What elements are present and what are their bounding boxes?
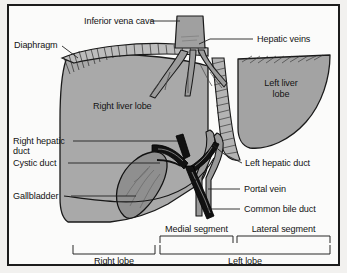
left-liver-lobe-shape [238, 55, 330, 148]
label-right-lobe: Right lobe [73, 256, 155, 266]
label-hepatic-veins: Hepatic veins [257, 34, 310, 44]
label-cystic-duct: Cystic duct [13, 158, 56, 168]
label-right-hepatic-duct-line2: duct [13, 146, 30, 156]
label-lateral-segment: Lateral segment [237, 224, 330, 234]
label-right-liver-lobe: Right liver lobe [93, 101, 152, 111]
bracket-right-lobe [73, 245, 155, 254]
label-portal-vein: Portal vein [244, 184, 286, 194]
label-left-hepatic-duct: Left hepatic duct [245, 158, 310, 168]
bracket-lateral-segment [237, 236, 330, 243]
label-left-lobe: Left lobe [160, 256, 330, 266]
label-medial-segment: Medial segment [160, 224, 233, 234]
label-right-hepatic-duct-line1: Right hepatic [13, 136, 65, 146]
segment-brackets [73, 236, 330, 254]
bracket-left-lobe [160, 245, 330, 254]
label-diaphragm: Diaphragm [14, 40, 58, 50]
bracket-medial-segment [160, 236, 233, 243]
label-gallbladder: Gallbladder [13, 191, 58, 201]
label-left-liver-lobe-line2: lobe [255, 89, 307, 99]
label-common-bile-duct: Common bile duct [244, 204, 316, 214]
figure-page: Inferior vena cava Hepatic veins Diaphra… [0, 0, 347, 273]
leader-hepatic-veins [199, 39, 253, 44]
label-left-liver-lobe-line1: Left liver [255, 78, 307, 88]
label-inferior-vena-cava: Inferior vena cava [84, 16, 154, 26]
